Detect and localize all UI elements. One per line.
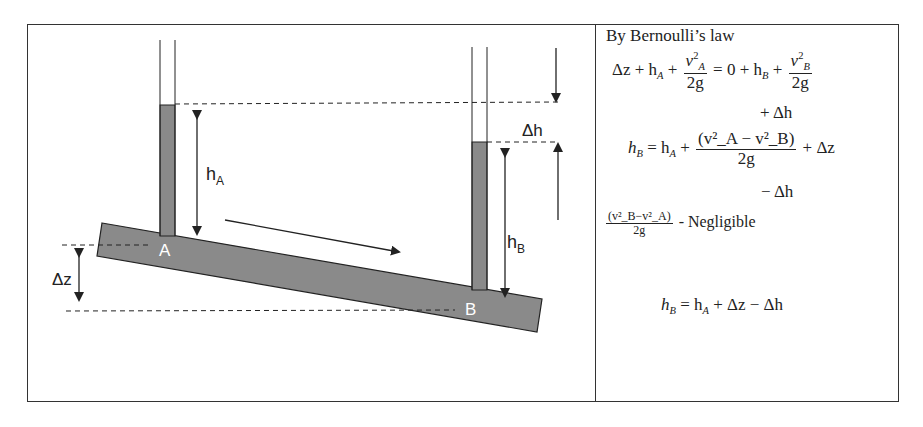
hb-equation: hB = hA + (v²_A − v²_B)2g + Δz: [628, 130, 835, 168]
piezometer-tube-a: [160, 40, 175, 236]
delta-z-label: Δz: [52, 270, 72, 289]
level-a-dashed-line: [175, 102, 558, 104]
point-a-label: A: [159, 241, 171, 260]
final-equation: hB = hA + Δz − Δh: [661, 295, 783, 316]
pipe-diagram: hA hB Δh Δz A B: [0, 0, 600, 427]
bernoulli-equation: Δz + hA + v2A2g = 0 + hB + v2B2g: [612, 50, 814, 92]
datum-b-dashed-line: [66, 310, 455, 311]
bernoulli-equation-continued: + Δh: [760, 103, 792, 123]
negligible-term: (v²_B−v²_A)2g - Negligible: [604, 210, 756, 237]
ha-label: hA: [206, 164, 224, 188]
flow-direction-arrow: [225, 220, 399, 252]
hb-label: hB: [507, 232, 525, 256]
piezometer-tube-b: [472, 47, 487, 290]
hb-equation-continued: − Δh: [761, 182, 793, 202]
derivation-heading: By Bernoulli’s law: [606, 26, 734, 46]
delta-h-label: Δh: [522, 121, 543, 140]
point-b-label: B: [465, 300, 476, 319]
